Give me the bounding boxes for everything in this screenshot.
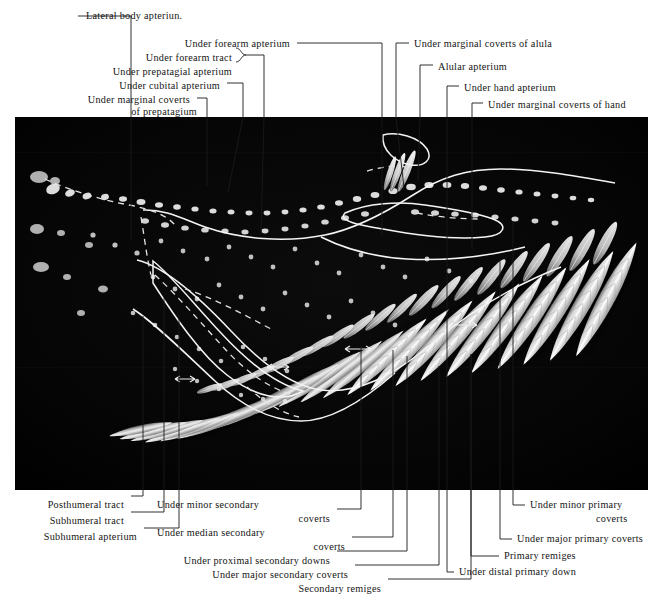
label-lateral-body-apterium: Lateral body apteriun. — [86, 10, 182, 22]
label-under-minor-secondary-coverts-line1: Under minor secondary — [157, 499, 259, 511]
label-secondary-remiges: Secondary remiges — [241, 583, 381, 595]
leader-under-distal-primary-down — [447, 254, 454, 572]
label-under-marginal-coverts-of-prepatagium-line2: of prepatagium — [0, 106, 197, 118]
label-under-marginal-coverts-of-hand: Under marginal coverts of hand — [488, 99, 626, 111]
label-under-median-secondary-coverts-line1: Under median secondary — [157, 527, 265, 539]
label-under-marginal-coverts-of-prepatagium-line1: Under marginal coverts — [0, 94, 190, 106]
label-under-minor-primary-coverts-line1: Under minor primary — [530, 499, 622, 511]
leader-under-marginal-coverts-of-alula — [396, 43, 409, 188]
label-under-cubital-apterium: Under cubital apterium — [0, 80, 220, 92]
leader-under-proximal-secondary-downs — [337, 356, 407, 551]
leader-under-major-secondary-coverts — [355, 366, 439, 565]
leader-under-marginal-coverts-prepatagium — [197, 98, 207, 186]
label-primary-remiges: Primary remiges — [504, 550, 576, 562]
label-alular-apterium: Alular apterium — [438, 61, 507, 73]
label-under-hand-apterium: Under hand apterium — [464, 82, 556, 94]
leader-subhumeral-apterium — [144, 316, 179, 528]
label-subhumeral-tract: Subhumeral tract — [0, 515, 124, 527]
label-under-marginal-coverts-of-alula: Under marginal coverts of alula — [414, 38, 552, 50]
label-under-minor-primary-coverts-line2: coverts — [596, 513, 627, 525]
leader-subhumeral-tract — [131, 298, 164, 512]
leader-under-minor-primary-coverts — [513, 222, 525, 505]
label-under-minor-secondary-coverts-line2: coverts — [157, 513, 330, 525]
leader-under-forearm-tract-group — [246, 55, 264, 234]
label-under-major-primary-coverts: Under major primary coverts — [517, 533, 643, 545]
leader-alular-apterium — [418, 65, 433, 180]
label-subhumeral-apterium: Subhumeral apterium — [0, 531, 137, 543]
label-under-major-secondary-coverts: Under major secondary coverts — [128, 569, 348, 581]
label-under-forearm-apterium: Under forearm apterium — [0, 38, 290, 50]
leader-under-marginal-coverts-of-hand — [472, 103, 483, 250]
leader-under-cubital-apterium — [227, 83, 243, 192]
leader-primary-remiges — [471, 354, 499, 556]
leader-secondary-remiges — [388, 354, 471, 579]
label-under-median-secondary-coverts-line2: coverts — [157, 541, 345, 553]
label-under-proximal-secondary-downs: Under proximal secondary downs — [110, 555, 330, 567]
leader-under-major-primary-coverts — [500, 258, 512, 539]
leader-under-hand-apterium — [447, 86, 459, 254]
label-under-distal-primary-down: Under distal primary down — [459, 566, 576, 578]
label-under-forearm-tract: Under forearm tract — [0, 52, 232, 64]
leader-under-minor-secondary-coverts — [337, 346, 361, 509]
label-under-prepatagial-apterium: Under prepatagial apterium — [0, 66, 232, 78]
leader-under-forearm-apterium — [297, 43, 382, 236]
leader-posthumeral-tract — [131, 316, 143, 496]
label-posthumeral-tract: Posthumeral tract — [0, 499, 124, 511]
